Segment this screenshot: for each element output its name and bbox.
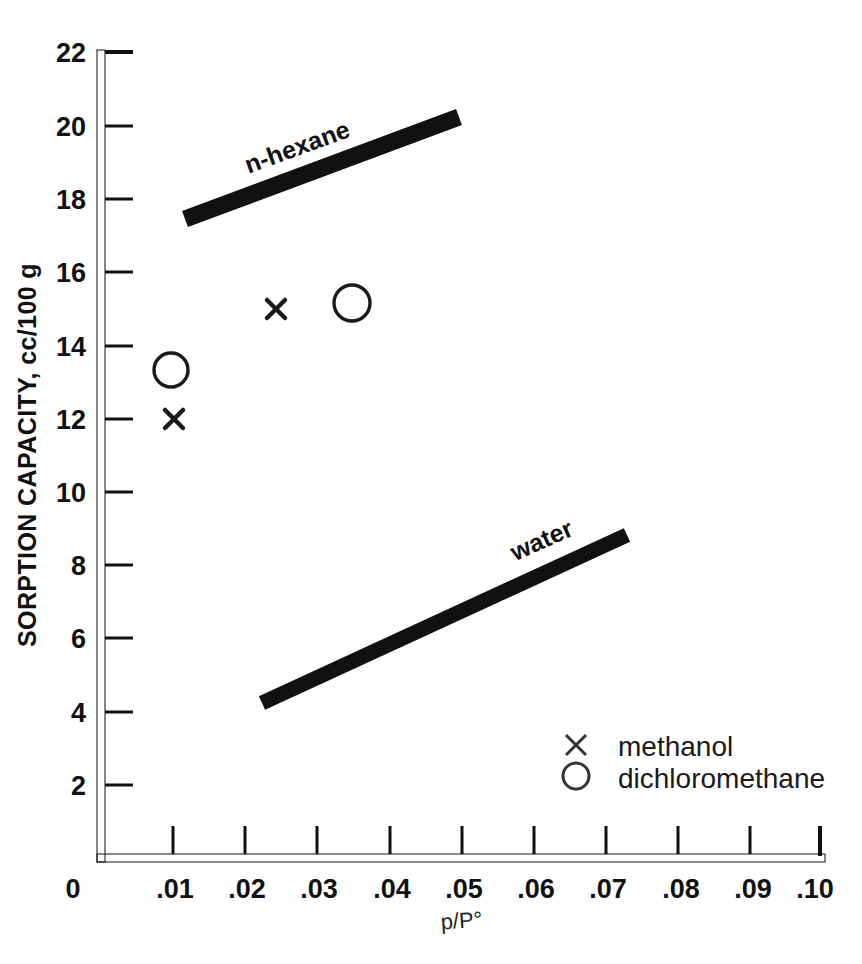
y-axis-tick-labels: 22 20 18 16 14 12 10 8 6 4 2 xyxy=(56,38,86,801)
y-tick-label-18: 18 xyxy=(56,185,86,215)
legend-entry-dichloromethane[interactable]: dichloromethane xyxy=(563,763,825,794)
y-axis-line xyxy=(97,50,105,862)
x-tick-label-0_05: .05 xyxy=(445,874,483,904)
y-tick-label-8: 8 xyxy=(71,551,86,581)
y-tick-label-2: 2 xyxy=(71,771,86,801)
dichloromethane-point-1 xyxy=(154,353,188,387)
chart-figure: 22 20 18 16 14 12 10 8 6 4 2 0 .01 .02 .… xyxy=(0,0,862,964)
x-tick-label-0_04: .04 xyxy=(373,874,411,904)
methanol-point-2 xyxy=(267,300,285,318)
x-tick-label-0_07: .07 xyxy=(589,874,627,904)
y-tick-label-14: 14 xyxy=(56,332,86,362)
x-tick-label-0_10: .10 xyxy=(796,874,834,904)
sorption-capacity-scatter-chart: 22 20 18 16 14 12 10 8 6 4 2 0 .01 .02 .… xyxy=(0,0,862,964)
y-tick-label-16: 16 xyxy=(56,258,86,288)
y-axis-ticks xyxy=(105,126,133,785)
x-tick-label-0_06: .06 xyxy=(517,874,555,904)
y-axis-title: SORPTION CAPACITY, cc/100 g xyxy=(13,263,41,647)
x-tick-label-0_01: .01 xyxy=(156,874,194,904)
y-tick-label-10: 10 xyxy=(56,478,86,508)
x-marker-icon xyxy=(566,735,586,755)
series-dichloromethane-points xyxy=(154,285,370,387)
legend-label-methanol: methanol xyxy=(618,731,733,762)
y-axis-top-cap xyxy=(105,50,133,54)
y-tick-label-6: 6 xyxy=(71,624,86,654)
methanol-point-1 xyxy=(165,410,183,428)
x-tick-label-0_08: .08 xyxy=(662,874,700,904)
legend-label-dichloromethane: dichloromethane xyxy=(618,763,825,794)
x-tick-label-0_02: .02 xyxy=(228,874,266,904)
legend-entry-methanol[interactable]: methanol xyxy=(566,731,733,762)
y-tick-label-20: 20 xyxy=(56,112,86,142)
y-tick-label-4: 4 xyxy=(71,698,86,728)
x-tick-label-0_09: .09 xyxy=(734,874,772,904)
x-tick-label-0_03: .03 xyxy=(300,874,338,904)
water-trend-line xyxy=(262,535,627,703)
y-tick-label-12: 12 xyxy=(56,405,86,435)
x-axis-tick-labels: 0 .01 .02 .03 .04 .05 .06 .07 .08 .09 .1… xyxy=(65,874,833,904)
dichloromethane-point-2 xyxy=(334,285,370,321)
y-tick-label-22: 22 xyxy=(56,38,86,68)
x-tick-label-0: 0 xyxy=(65,874,80,904)
series-methanol-points xyxy=(165,300,285,428)
series-water: water xyxy=(262,514,627,703)
chart-legend: methanol dichloromethane xyxy=(563,731,825,794)
x-axis-ticks xyxy=(173,826,750,854)
x-axis-right-cap xyxy=(818,826,822,856)
x-axis-title: p/P° xyxy=(440,907,483,935)
series-n-hexane: n-hexane xyxy=(185,115,459,219)
circle-marker-icon xyxy=(563,763,589,789)
x-axis-line xyxy=(97,854,825,862)
